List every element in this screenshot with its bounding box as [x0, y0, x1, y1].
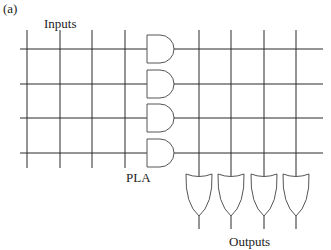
and-gate — [147, 35, 174, 63]
and-gate — [147, 104, 174, 132]
and-gate — [147, 139, 174, 167]
inputs-label: Inputs — [44, 16, 77, 31]
or-plane — [174, 30, 323, 229]
outputs-label: Outputs — [229, 234, 270, 249]
pla-diagram: (a) Inputs PLA Outputs — [0, 0, 331, 250]
and-gate — [147, 70, 174, 98]
or-gate — [251, 174, 277, 216]
or-gate — [283, 174, 309, 216]
figure-label: (a) — [3, 1, 17, 16]
or-gate — [186, 174, 212, 216]
pla-label: PLA — [126, 170, 151, 185]
or-gate — [218, 174, 244, 216]
and-plane — [20, 30, 174, 168]
